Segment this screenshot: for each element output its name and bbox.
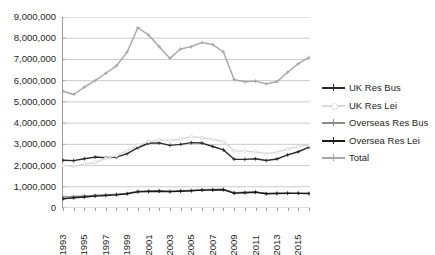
data-point-marker xyxy=(147,140,150,143)
data-point-marker xyxy=(275,157,279,161)
data-point-marker xyxy=(211,188,215,192)
x-axis-tick-label: 1993 xyxy=(58,234,68,255)
data-point-marker xyxy=(72,165,75,168)
x-axis-tick xyxy=(170,208,171,211)
x-axis-tick xyxy=(191,208,192,211)
data-point-marker xyxy=(264,159,268,163)
x-axis-tick xyxy=(213,208,214,211)
x-axis-tick-label: 2007 xyxy=(207,234,217,255)
data-point-marker xyxy=(93,155,97,159)
y-axis-labels: 01,000,0002,000,0003,000,0004,000,0005,0… xyxy=(0,0,62,255)
data-point-marker xyxy=(211,145,215,149)
legend-item[interactable]: Total xyxy=(322,149,435,167)
data-point-marker xyxy=(243,191,247,195)
data-point-marker xyxy=(136,144,139,147)
data-point-marker xyxy=(243,150,246,153)
data-point-marker xyxy=(200,41,204,45)
data-point-marker xyxy=(200,188,204,192)
chart-legend: UK Res BusUK Res LeiOverseas Res BusOver… xyxy=(322,79,435,167)
data-point-marker xyxy=(265,152,268,155)
data-point-marker xyxy=(275,151,278,154)
data-point-marker xyxy=(72,159,76,163)
x-axis-tick-label: 2013 xyxy=(271,234,281,255)
data-point-marker xyxy=(168,190,172,194)
data-point-marker xyxy=(179,138,182,141)
x-axis-tick xyxy=(63,208,64,211)
x-axis-tick xyxy=(223,208,224,211)
legend-swatch-icon xyxy=(322,135,345,146)
data-point-marker xyxy=(254,79,258,83)
y-axis-tick-label: 1,000,000 xyxy=(14,182,56,192)
data-point-marker xyxy=(254,150,257,153)
x-axis-tick-label: 1997 xyxy=(100,234,110,255)
data-point-marker xyxy=(275,192,279,196)
data-point-marker xyxy=(286,192,290,196)
data-point-marker xyxy=(104,157,107,160)
legend-item[interactable]: UK Res Bus xyxy=(322,79,435,97)
data-point-marker xyxy=(201,136,204,139)
data-point-marker xyxy=(222,140,225,143)
x-axis-tick xyxy=(95,208,96,211)
plot-area xyxy=(62,17,310,208)
series-line xyxy=(63,136,309,166)
plot-svg xyxy=(62,17,310,208)
legend-label: Total xyxy=(349,152,369,163)
x-axis-tick xyxy=(245,208,246,211)
x-axis-tick xyxy=(298,208,299,211)
data-point-marker xyxy=(297,192,301,196)
legend-swatch-icon xyxy=(322,100,345,111)
x-axis-tick-label: 2005 xyxy=(186,234,196,255)
y-axis-tick-label: 4,000,000 xyxy=(14,118,56,128)
data-point-marker xyxy=(179,143,183,147)
series-line xyxy=(63,190,309,199)
series-line xyxy=(63,143,309,161)
y-axis-tick-label: 2,000,000 xyxy=(14,161,56,171)
data-point-marker xyxy=(264,82,268,86)
x-axis-tick xyxy=(277,208,278,211)
data-point-marker xyxy=(179,189,183,193)
legend-label: Overseas Res Bus xyxy=(349,117,428,128)
x-axis-tick xyxy=(106,208,107,211)
y-axis-tick-label: 9,000,000 xyxy=(14,12,56,22)
data-point-marker xyxy=(62,164,65,167)
legend-item[interactable]: Overseas Res Bus xyxy=(322,114,435,132)
legend-swatch-icon xyxy=(322,82,345,93)
data-point-marker xyxy=(115,154,118,157)
data-point-marker xyxy=(190,135,193,138)
y-axis-tick-label: 0 xyxy=(51,203,56,213)
data-point-marker xyxy=(147,190,151,194)
data-point-marker xyxy=(297,145,300,148)
legend-label: Oversea Res Lei xyxy=(349,135,420,146)
x-axis-tick xyxy=(288,208,289,211)
data-point-marker xyxy=(307,192,310,196)
data-point-marker xyxy=(286,153,290,157)
data-point-marker xyxy=(157,189,161,193)
data-point-marker xyxy=(83,163,86,166)
data-point-marker xyxy=(222,188,226,192)
data-point-marker xyxy=(190,45,194,49)
y-axis-tick-label: 5,000,000 xyxy=(14,97,56,107)
x-axis-tick xyxy=(234,208,235,211)
x-axis-tick xyxy=(266,208,267,211)
x-axis-tick-label: 2011 xyxy=(250,235,260,255)
y-axis-tick-label: 3,000,000 xyxy=(14,139,56,149)
data-point-marker xyxy=(254,157,258,161)
x-axis-tick-label: 1999 xyxy=(122,234,132,255)
x-axis-tick xyxy=(256,208,257,211)
legend-swatch-icon xyxy=(322,117,345,128)
x-axis-labels: 1993199519971999200120032005200720092011… xyxy=(62,208,310,255)
x-axis-tick-label: 2003 xyxy=(164,234,174,255)
x-axis-tick xyxy=(181,208,182,211)
data-point-marker xyxy=(211,138,214,141)
data-point-marker xyxy=(190,141,194,145)
x-axis-tick xyxy=(116,208,117,211)
legend-swatch-icon xyxy=(322,152,345,163)
legend-item[interactable]: UK Res Lei xyxy=(322,97,435,115)
legend-label: UK Res Bus xyxy=(349,82,401,93)
x-axis-tick xyxy=(149,208,150,211)
x-axis-tick xyxy=(138,208,139,211)
legend-item[interactable]: Oversea Res Lei xyxy=(322,132,435,150)
data-point-marker xyxy=(190,189,194,193)
data-point-marker xyxy=(286,148,289,151)
data-point-marker xyxy=(83,157,87,161)
